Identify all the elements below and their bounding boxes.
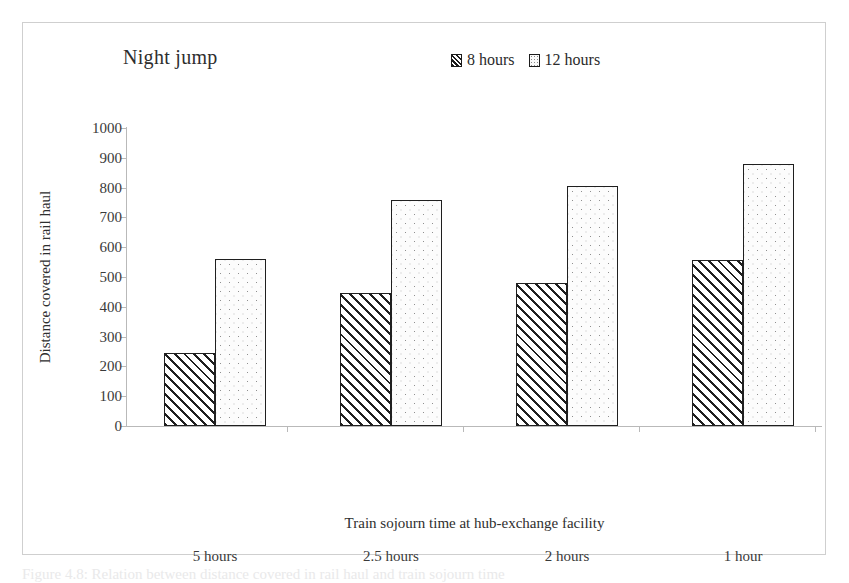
plot-area: 01002003004005006007008009001000 5 hours… <box>127 128 822 426</box>
y-axis-title: Distance covered in rail haul <box>37 128 57 426</box>
x-axis-category-label: 2.5 hours <box>363 548 419 565</box>
y-axis-tick-label: 600 <box>100 239 123 256</box>
x-axis-tick-mark <box>815 426 816 432</box>
y-axis-tick-label: 200 <box>100 358 123 375</box>
y-axis-tick-label: 0 <box>115 418 123 435</box>
x-axis-title: Train sojourn time at hub-exchange facil… <box>127 515 822 532</box>
y-axis-tick-label: 1000 <box>92 120 122 137</box>
x-axis-tick-mark <box>463 426 464 432</box>
legend-swatch-dots-icon <box>529 54 540 67</box>
legend-label-series-1: 8 hours <box>467 51 515 69</box>
x-axis-category-label: 5 hours <box>193 548 238 565</box>
x-axis-category-label: 2 hours <box>545 548 590 565</box>
chart-title: Night jump <box>123 46 218 69</box>
y-axis-tick-label: 400 <box>100 298 123 315</box>
x-axis-category-label: 1 hour <box>724 548 763 565</box>
figure-caption: Figure 4.8: Relation between distance co… <box>22 566 832 583</box>
legend-swatch-hatch-icon <box>451 54 462 67</box>
bar-2-hours-8-hours <box>516 283 567 426</box>
x-axis-tick-mark <box>639 426 640 432</box>
y-axis-tick-label: 300 <box>100 328 123 345</box>
bar-2-5-hours-12-hours <box>391 200 442 426</box>
y-axis-tick-label: 900 <box>100 149 123 166</box>
chart-legend: 8 hours 12 hours <box>451 51 600 69</box>
legend-entry-series-1: 8 hours <box>451 51 515 69</box>
y-axis-tick-label: 500 <box>100 269 123 286</box>
y-axis-tick-label: 100 <box>100 388 123 405</box>
bar-5-hours-8-hours <box>164 353 215 426</box>
y-axis-tick-label: 800 <box>100 179 123 196</box>
legend-label-series-2: 12 hours <box>545 51 601 69</box>
figure-frame: Night jump 8 hours 12 hours Distance cov… <box>22 22 826 555</box>
x-axis-tick-mark <box>287 426 288 432</box>
bar-5-hours-12-hours <box>215 259 266 426</box>
bar-2-5-hours-8-hours <box>340 293 391 426</box>
legend-entry-series-2: 12 hours <box>529 51 601 69</box>
bar-2-hours-12-hours <box>567 186 618 426</box>
bar-1-hour-8-hours <box>692 260 743 426</box>
y-axis-tick-label: 700 <box>100 209 123 226</box>
x-axis-line <box>126 426 822 427</box>
bar-1-hour-12-hours <box>743 164 794 426</box>
